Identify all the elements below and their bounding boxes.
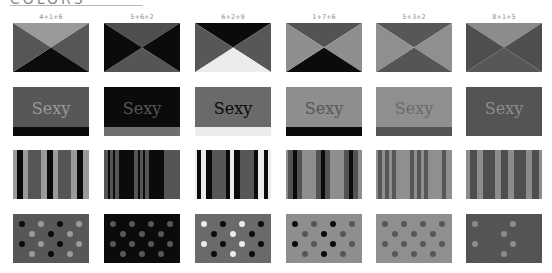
accent-bar — [195, 127, 271, 136]
accent-bar — [104, 127, 180, 136]
triangle-swatch — [104, 23, 180, 72]
dot-swatch — [195, 214, 271, 263]
combo-label: 5+6+2 — [104, 13, 180, 21]
triangle-swatch — [376, 23, 452, 72]
accent-bar — [13, 127, 89, 136]
sample-text: Sexy — [466, 99, 542, 118]
sample-text: Sexy — [286, 99, 362, 118]
dot-swatch — [376, 214, 452, 263]
sample-text: Sexy — [376, 99, 452, 118]
stripe-swatch — [13, 150, 89, 199]
triangle-swatch — [195, 23, 271, 72]
text-swatch: Sexy — [466, 87, 542, 136]
sample-text: Sexy — [13, 99, 89, 118]
combo-label: 4+1+6 — [13, 13, 89, 21]
dot-swatch — [286, 214, 362, 263]
text-swatch: Sexy — [376, 87, 452, 136]
dot-swatch — [104, 214, 180, 263]
accent-bar — [466, 127, 542, 136]
heading-rule — [10, 5, 143, 6]
sample-text: Sexy — [104, 99, 180, 118]
accent-bar — [286, 127, 362, 136]
text-swatch: Sexy — [13, 87, 89, 136]
combo-label: 6+2+9 — [195, 13, 271, 21]
stripe-swatch — [104, 150, 180, 199]
stripe-swatch — [466, 150, 542, 199]
accent-bar — [376, 127, 452, 136]
sample-text: Sexy — [195, 99, 271, 118]
triangle-swatch — [286, 23, 362, 72]
dot-swatch — [13, 214, 89, 263]
combo-label: 1+7+6 — [286, 13, 362, 21]
stripe-swatch — [286, 150, 362, 199]
stripe-swatch — [195, 150, 271, 199]
triangle-swatch — [13, 23, 89, 72]
stripe-swatch — [376, 150, 452, 199]
text-swatch: Sexy — [195, 87, 271, 136]
text-swatch: Sexy — [286, 87, 362, 136]
triangle-swatch — [466, 23, 542, 72]
text-swatch: Sexy — [104, 87, 180, 136]
combo-label: 8+1+5 — [466, 13, 542, 21]
combo-label: 5+3+2 — [376, 13, 452, 21]
dot-swatch — [466, 214, 542, 263]
